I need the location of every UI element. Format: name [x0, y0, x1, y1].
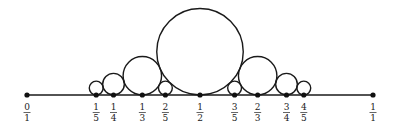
numerator: 1	[93, 102, 99, 112]
denominator: 3	[139, 113, 145, 123]
ford-circle-2-3	[238, 57, 276, 95]
circles-group	[89, 9, 310, 96]
fraction-label-1-5: 15	[93, 102, 100, 123]
point-1-4	[111, 92, 116, 97]
fraction-label-2-3: 23	[254, 102, 261, 123]
ford-circles-diagram: 0115141325123523344511	[0, 0, 395, 130]
denominator: 4	[284, 113, 290, 123]
denominator: 2	[197, 113, 203, 123]
numerator: 1	[111, 102, 117, 112]
ford-circle-3-4	[276, 73, 298, 95]
point-4-5	[301, 92, 306, 97]
numerator: 2	[163, 102, 169, 112]
point-1-5	[94, 92, 99, 97]
denominator: 5	[232, 113, 238, 123]
numerator: 3	[232, 102, 238, 112]
numerator: 2	[255, 102, 261, 112]
labels-group: 0115141325123523344511	[24, 102, 377, 123]
fraction-label-3-5: 35	[231, 102, 238, 123]
denominator: 5	[301, 113, 307, 123]
fraction-label-4-5: 45	[300, 102, 307, 123]
point-1-1	[370, 92, 375, 97]
denominator: 5	[163, 113, 169, 123]
numerator: 4	[301, 102, 307, 112]
fraction-label-3-4: 34	[283, 102, 290, 123]
denominator: 5	[93, 113, 99, 123]
numerator: 3	[284, 102, 290, 112]
point-2-5	[163, 92, 168, 97]
point-1-3	[140, 92, 145, 97]
numerator: 0	[24, 102, 30, 112]
fraction-label-1-4: 14	[110, 102, 117, 123]
point-3-4	[284, 92, 289, 97]
ford-circle-1-4	[103, 73, 125, 95]
ford-circle-1-3	[123, 57, 161, 95]
fraction-label-1-1: 11	[370, 102, 377, 123]
point-1-2	[197, 92, 202, 97]
numerator: 1	[370, 102, 376, 112]
numerator: 1	[139, 102, 145, 112]
point-3-5	[232, 92, 237, 97]
numerator: 1	[197, 102, 203, 112]
denominator: 1	[24, 113, 30, 123]
denominator: 4	[111, 113, 117, 123]
fraction-label-2-5: 25	[162, 102, 169, 123]
fraction-label-0-1: 01	[24, 102, 31, 123]
point-0-1	[24, 92, 29, 97]
point-2-3	[255, 92, 260, 97]
denominator: 3	[255, 113, 261, 123]
fraction-label-1-2: 12	[197, 102, 204, 123]
fraction-label-1-3: 13	[139, 102, 146, 123]
denominator: 1	[370, 113, 376, 123]
